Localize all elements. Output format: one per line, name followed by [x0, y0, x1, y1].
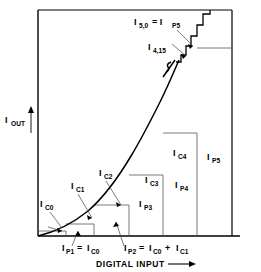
- label-ic0: I C0: [40, 199, 54, 211]
- label-ic4: I C4: [173, 148, 187, 160]
- label-ic0-main: I: [40, 199, 43, 209]
- label-ic3-sub: C3: [150, 180, 159, 187]
- label-ic1: I C1: [71, 181, 85, 193]
- transfer-curve: [38, 60, 179, 236]
- label-i50: I 5,0 = I P5: [134, 17, 180, 30]
- right-arrow-icon: [168, 261, 196, 267]
- label-ic3-main: I: [145, 175, 148, 185]
- ip2-plus: +: [165, 243, 170, 253]
- label-i50-eq: = I: [152, 17, 162, 27]
- ip2-sub2: C0: [153, 248, 162, 255]
- current-source-steps: [38, 48, 232, 236]
- label-ip1-equation: I P1 = I C0: [62, 243, 100, 255]
- arrowhead-ip2: [113, 222, 119, 227]
- y-axis-label-main: I: [5, 115, 8, 125]
- y-axis-label-sub: OUT: [11, 120, 25, 127]
- label-ic2-sub: C2: [104, 173, 113, 180]
- label-ip5: I P5: [207, 152, 220, 164]
- step-ip3: [94, 205, 129, 236]
- ip1-i1: I: [62, 243, 65, 253]
- ip2-eq: =: [139, 243, 144, 253]
- label-i415-main: I: [148, 42, 151, 52]
- label-i50-main: I: [134, 17, 137, 27]
- label-ip5-sub: P5: [212, 157, 220, 164]
- ip1-eq: =: [77, 243, 82, 253]
- step-ip2: [66, 224, 94, 236]
- leader-arrowheads: [57, 44, 193, 236]
- ip1-sub1: P1: [66, 248, 74, 255]
- curve-step-labels: I C0 I C1 I C2 I C3 I C4: [40, 148, 187, 211]
- label-ip3-main: I: [139, 199, 142, 209]
- dac-transfer-characteristic-figure: I OUT DIGITAL INPUT I C0 I C1: [0, 0, 261, 272]
- curve-path: [38, 60, 179, 236]
- label-ic2-main: I: [99, 168, 102, 178]
- top-annotation-labels: I 5,0 = I P5 I 4,15: [134, 17, 180, 55]
- label-ic4-sub: C4: [178, 153, 187, 160]
- x-axis-title: DIGITAL INPUT: [96, 259, 165, 269]
- ip2-i1: I: [124, 243, 127, 253]
- ip2-i2: I: [149, 243, 152, 253]
- leader-lines: [48, 30, 193, 246]
- bottom-equation-labels: I P1 = I C0 I P2 = I C0 + I C1: [62, 243, 189, 255]
- x-axis-title-group: DIGITAL INPUT: [96, 259, 196, 269]
- label-i415-sub: 4,15: [153, 47, 166, 55]
- label-ip5-main: I: [207, 152, 210, 162]
- label-ic0-sub: C0: [45, 204, 54, 211]
- ip1-i2: I: [87, 243, 90, 253]
- label-ic3: I C3: [145, 175, 159, 187]
- ip2-i3: I: [176, 243, 179, 253]
- label-ic4-main: I: [173, 148, 176, 158]
- leader-i415: [172, 44, 186, 56]
- label-ic1-main: I: [71, 181, 74, 191]
- ip2-sub3: C1: [180, 248, 189, 255]
- label-i415: I 4,15: [148, 42, 166, 55]
- label-ic1-sub: C1: [76, 186, 85, 193]
- arrowhead-ip1: [75, 231, 81, 236]
- arrowhead-ic1: [87, 215, 92, 220]
- label-i50-eq-sub: P5: [172, 22, 180, 29]
- label-i50-sub: 5,0: [139, 22, 148, 30]
- up-arrow-icon: [28, 106, 34, 133]
- label-ip3-sub: P3: [144, 204, 152, 211]
- label-ip4-main: I: [175, 180, 178, 190]
- arrowhead-ic2: [116, 202, 121, 207]
- label-ip4: I P4: [175, 180, 188, 192]
- label-ip2-equation: I P2 = I C0 + I C1: [124, 243, 189, 255]
- ip1-sub2: C0: [91, 248, 100, 255]
- label-ip3: I P3: [139, 199, 152, 211]
- figure-canvas: I OUT DIGITAL INPUT I C0 I C1: [0, 0, 261, 272]
- label-ip4-sub: P4: [180, 185, 188, 192]
- leader-ic1: [78, 194, 92, 218]
- ip2-sub1: P2: [128, 248, 136, 255]
- leader-ic2: [106, 181, 121, 205]
- label-ic2: I C2: [99, 168, 113, 180]
- leader-ic0: [50, 212, 62, 228]
- y-axis-label-group: I OUT: [5, 106, 34, 133]
